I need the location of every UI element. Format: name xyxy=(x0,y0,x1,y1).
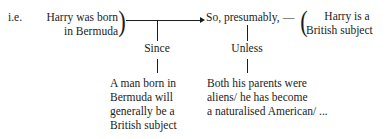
warrant-line-2: Bermuda will xyxy=(110,90,173,104)
rebuttal-connector-label: Unless xyxy=(217,42,277,55)
qualifier-arrowhead-icon xyxy=(200,17,205,23)
prefix-label: i.e. xyxy=(8,10,22,24)
warrant-lower-stem xyxy=(157,59,158,73)
warrant-upper-stem xyxy=(157,21,158,41)
qualifier-to-claim-dash: — xyxy=(283,10,295,24)
warrant-line-3: generally be a xyxy=(110,104,175,118)
rebuttal-line-1: Both his parents were xyxy=(207,76,307,90)
claim-line-2: British subject xyxy=(306,23,388,37)
qualifier-text: So, presumably, xyxy=(206,10,280,24)
datum-line-1: Harry was born xyxy=(28,10,118,24)
warrant-line-4: British subject xyxy=(110,118,177,132)
rebuttal-upper-stem xyxy=(247,25,248,41)
toulmin-diagram: i.e. Harry was born in Bermuda ) So, pre… xyxy=(0,0,391,139)
claim-line-1: Harry is a xyxy=(306,9,388,23)
datum-brace: ) xyxy=(118,6,126,36)
datum-to-qualifier-line xyxy=(126,20,202,21)
rebuttal-line-2: aliens/ he has become xyxy=(207,90,308,104)
warrant-line-1: A man born in xyxy=(110,76,176,90)
rebuttal-lower-stem xyxy=(247,59,248,73)
datum-line-2: in Bermuda xyxy=(28,24,118,38)
rebuttal-line-3: a naturalised American/ ... xyxy=(207,104,328,118)
warrant-connector-label: Since xyxy=(127,42,187,55)
